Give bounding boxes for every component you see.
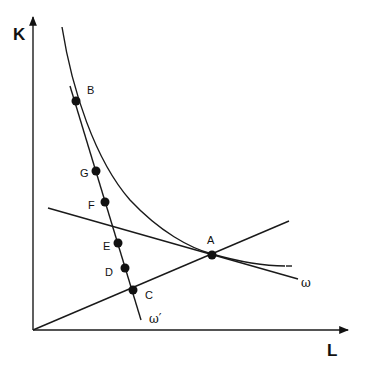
point-g-dot: [92, 167, 101, 176]
isoquant-diagram: K L ω ω′ A B C D E F G: [0, 0, 372, 370]
point-b-label: B: [87, 84, 94, 96]
point-e-label: E: [103, 240, 110, 252]
point-d-dot: [121, 264, 130, 273]
point-b-dot: [72, 97, 81, 106]
point-a-dot: [208, 251, 217, 260]
point-A: A: [207, 234, 217, 260]
point-e-dot: [114, 239, 123, 248]
point-f-label: F: [88, 199, 95, 211]
l-axis-label: L: [327, 341, 337, 360]
point-c-label: C: [145, 289, 153, 301]
omega-prime-label: ω′: [149, 312, 162, 326]
k-axis-label: K: [13, 25, 26, 44]
omega-line: [48, 208, 298, 279]
point-F: F: [88, 198, 110, 212]
point-a-label: A: [207, 234, 215, 246]
point-d-label: D: [105, 266, 113, 278]
point-D: D: [105, 264, 130, 279]
point-g-label: G: [80, 167, 89, 179]
point-c-dot: [129, 286, 138, 295]
point-C: C: [129, 286, 154, 302]
omega-label: ω: [301, 276, 311, 290]
isoquant-curve: [62, 27, 285, 266]
point-f-dot: [101, 198, 110, 207]
